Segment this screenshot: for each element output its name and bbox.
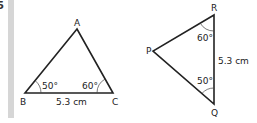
diagram-canvas: A B C 50° 60° 5.3 cm R P Q 60° 50° 5.3 c… (0, 0, 257, 123)
angle-arc-q (202, 88, 214, 94)
vertex-label-c: C (112, 97, 118, 107)
angle-label-b: 50° (42, 81, 58, 91)
angle-arc-r (200, 23, 214, 31)
angle-arc-c (97, 79, 105, 93)
vertex-label-p: P (146, 46, 152, 56)
angle-label-c: 60° (82, 81, 98, 91)
vertex-label-q: Q (211, 108, 218, 118)
side-label-bc: 5.3 cm (56, 97, 87, 107)
side-label-qr: 5.3 cm (218, 56, 249, 66)
angle-label-r: 60° (197, 33, 213, 43)
angle-label-q: 50° (197, 76, 213, 86)
vertex-label-b: B (20, 97, 26, 107)
angle-arc-b (35, 81, 41, 93)
triangle-abc: A B C 50° 60° 5.3 cm (20, 18, 118, 107)
vertex-label-a: A (74, 18, 81, 28)
vertex-label-r: R (211, 3, 217, 13)
triangle-pqr: R P Q 60° 50° 5.3 cm (146, 3, 249, 118)
